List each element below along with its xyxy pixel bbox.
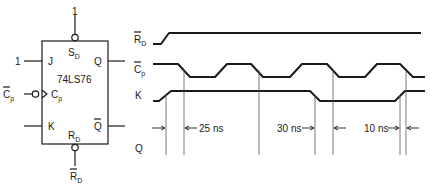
reset-input-label: RD — [70, 171, 82, 184]
waveform-rd — [153, 33, 421, 44]
j-input-value: 1 — [15, 56, 21, 67]
flip-flop-symbol: 1 SD 1 J 74LS76 Cp Cp K Q Q RD RD — [3, 6, 125, 184]
clock-inversion-bubble — [32, 91, 38, 97]
signal-label-k: K — [135, 90, 142, 101]
signal-label-cp: Cp — [134, 64, 145, 78]
waveform-k — [153, 91, 425, 101]
part-number: 74LS76 — [57, 74, 92, 85]
set-inversion-bubble — [72, 34, 78, 40]
signal-label-rd: RD — [134, 34, 146, 47]
pin-cp-label: Cp — [51, 89, 62, 103]
pin-q-label: Q — [94, 56, 102, 67]
timing-diagram: RD Cp K Q 25 ns 30 ns — [134, 32, 425, 155]
reset-inversion-bubble — [72, 144, 78, 150]
flip-flop-timing-diagram: 1 SD 1 J 74LS76 Cp Cp K Q Q RD RD R — [0, 0, 434, 184]
delay-label-10ns: 10 ns — [364, 123, 388, 134]
clock-input-label: Cp — [3, 89, 14, 103]
delay-annotation-1: 25 ns — [152, 123, 223, 134]
pin-j-label: J — [48, 56, 53, 67]
delay-label-25ns: 25 ns — [199, 123, 223, 134]
signal-label-q: Q — [135, 143, 143, 154]
delay-annotation-3: 10 ns — [364, 123, 419, 134]
clock-edge-triangle-icon — [42, 90, 47, 98]
pin-rd-label: RD — [68, 130, 80, 143]
waveform-cp — [153, 64, 425, 77]
set-input-value: 1 — [72, 6, 78, 17]
pin-q-bar-label: Q — [94, 121, 102, 132]
delay-annotation-2: 30 ns — [277, 123, 346, 134]
delay-label-30ns: 30 ns — [277, 123, 301, 134]
pin-sd-label: SD — [68, 47, 80, 60]
pin-k-label: K — [48, 121, 55, 132]
